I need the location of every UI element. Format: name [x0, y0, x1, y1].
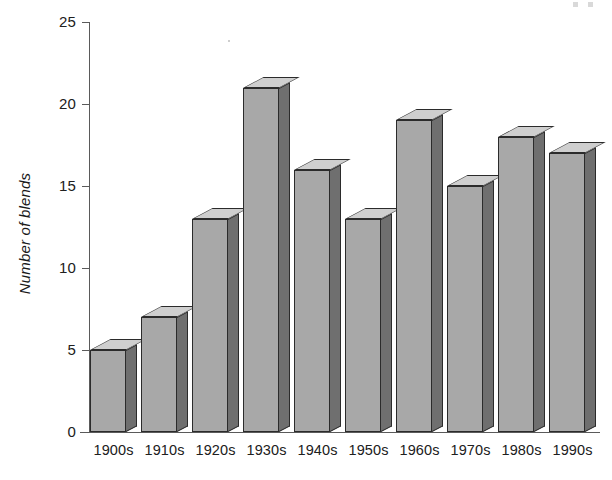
y-axis-title: Number of blends: [16, 144, 33, 324]
y-tick-mark-5: [82, 350, 90, 351]
y-tick-label-20-text: 20: [30, 96, 76, 111]
y-tick-label-5: 5: [30, 342, 76, 357]
bar-front-face: [549, 153, 585, 432]
bar-1910s[interactable]: [141, 306, 188, 432]
bar-chart-figure: Number of blends 25 20 15 10 5 0 1900s19…: [0, 0, 612, 480]
bar-side-face: [228, 213, 239, 432]
bar-1980s[interactable]: [498, 126, 545, 432]
y-tick-label-25-text: 25: [30, 14, 76, 29]
bar-top-face: [498, 126, 555, 137]
y-tick-label-15: 15: [30, 178, 76, 193]
bar-1930s[interactable]: [243, 77, 290, 432]
y-tick-label-25: 25: [30, 14, 76, 29]
bar-1920s[interactable]: [192, 208, 239, 432]
bar-top-face: [141, 306, 198, 317]
y-tick-mark-0: [82, 432, 90, 433]
y-tick-mark-15: [82, 186, 90, 187]
y-tick-label-0: 0: [30, 424, 76, 439]
bar-side-face: [177, 311, 188, 432]
bar-front-face: [294, 170, 330, 432]
y-tick-label-5-text: 5: [30, 342, 76, 357]
bar-side-face: [432, 115, 443, 432]
bar-side-face: [330, 164, 341, 432]
y-tick-label-10-text: 10: [30, 260, 76, 275]
bar-1970s[interactable]: [447, 175, 494, 432]
bar-side-face: [534, 131, 545, 432]
bar-front-face: [345, 219, 381, 432]
bar-side-face: [279, 82, 290, 432]
bar-side-face: [585, 147, 596, 432]
bar-front-face: [243, 88, 279, 432]
x-axis-line: [80, 432, 600, 433]
bar-top-face: [396, 109, 453, 120]
scan-artifact-speck: [228, 40, 230, 42]
bar-front-face: [447, 186, 483, 432]
y-tick-mark-20: [82, 104, 90, 105]
bar-front-face: [90, 350, 126, 432]
bar-top-face: [345, 208, 402, 219]
bar-side-face: [381, 213, 392, 432]
bar-top-face: [90, 339, 147, 350]
bar-1900s[interactable]: [90, 339, 137, 432]
bar-1990s[interactable]: [549, 142, 596, 432]
bar-top-face: [549, 142, 606, 153]
scan-artifact-speck: [588, 2, 593, 7]
y-tick-label-20: 20: [30, 96, 76, 111]
bar-front-face: [396, 120, 432, 432]
bar-1950s[interactable]: [345, 208, 392, 432]
y-tick-label-10: 10: [30, 260, 76, 275]
bar-top-face: [447, 175, 504, 186]
x-tick-label-1990s: 1990s: [541, 441, 605, 459]
bar-top-face: [192, 208, 249, 219]
bar-front-face: [192, 219, 228, 432]
bar-side-face: [483, 180, 494, 432]
y-tick-mark-10: [82, 268, 90, 269]
y-tick-label-15-text: 15: [30, 178, 76, 193]
y-tick-label-0-text: 0: [30, 424, 76, 439]
bar-front-face: [498, 137, 534, 432]
y-tick-mark-25: [82, 22, 90, 23]
bar-top-face: [294, 159, 351, 170]
scan-artifact-speck: [573, 2, 578, 7]
bar-side-face: [126, 344, 137, 432]
bar-top-face: [243, 77, 300, 88]
bar-front-face: [141, 317, 177, 432]
bar-1940s[interactable]: [294, 159, 341, 432]
bar-1960s[interactable]: [396, 109, 443, 432]
